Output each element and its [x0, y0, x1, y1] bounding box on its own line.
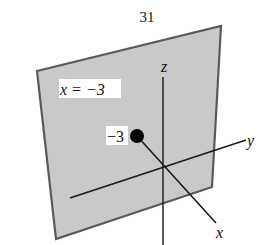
plane-x-equals-minus-3 [37, 26, 221, 239]
point-label: −3 [107, 128, 124, 145]
point-minus-3 [130, 129, 144, 143]
x-axis-label: x [215, 224, 223, 241]
z-axis-label: z [160, 58, 168, 75]
figure-number: 31 [140, 9, 155, 25]
plane-diagram: 31 x = −3 −3 z y x [0, 0, 265, 245]
plane-label: x = −3 [59, 81, 105, 98]
y-axis-label: y [245, 132, 255, 150]
